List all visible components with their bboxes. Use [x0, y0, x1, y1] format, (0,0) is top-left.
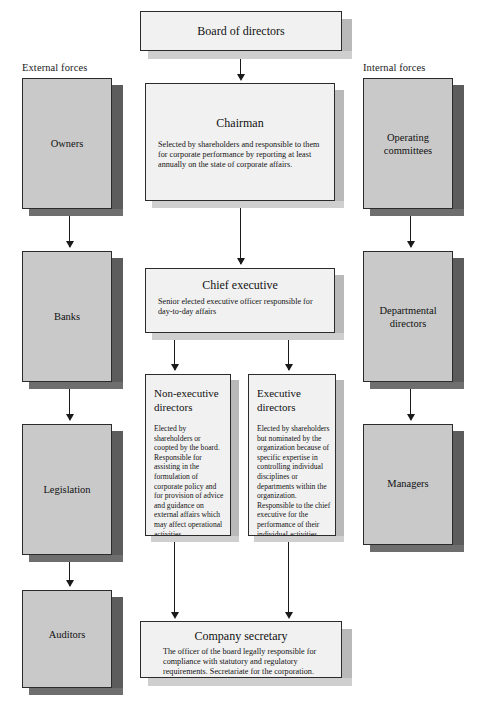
arrowhead-executive-to-company-secretary [285, 612, 293, 619]
external-forces-header: External forces [22, 62, 87, 73]
owners-label: Owners [51, 138, 84, 149]
departmental-directors-label-line2: directors [390, 318, 427, 329]
connector-non-executive-to-company-secretary [174, 542, 175, 617]
box-non-executive-directors: Non-executive directors Elected by share… [145, 374, 240, 542]
operating-committees-label-line1: Operating [387, 132, 429, 143]
internal-forces-header: Internal forces [363, 62, 425, 73]
box-chief-executive: Chief executive Senior elected executive… [145, 268, 345, 340]
arrowhead-chairman-to-chief-executive [237, 258, 245, 265]
connector-chairman-to-chief-executive [240, 208, 241, 264]
chief-executive-body: Senior elected executive officer respons… [158, 297, 326, 317]
arrowhead-to-non-executive-directors [171, 364, 179, 371]
box-executive-directors: Executive directors Elected by sharehold… [248, 374, 345, 542]
arrowhead-banks-to-legislation [66, 414, 74, 421]
arrowhead-legislation-to-auditors [66, 580, 74, 587]
connector-executive-to-company-secretary [288, 542, 289, 617]
box-operating-committees: Operating committees [363, 78, 464, 216]
chairman-title: Chairman [146, 116, 334, 130]
box-legislation: Legislation [22, 424, 123, 562]
box-departmental-directors: Departmental directors [363, 251, 464, 389]
operating-committees-label-line2: committees [384, 145, 432, 156]
legislation-label: Legislation [43, 484, 90, 495]
arrowhead-board-to-chairman [237, 74, 245, 81]
arrowhead-departmental-directors-to-managers [407, 414, 415, 421]
org-chart-diagram: External forces Internal forces Board of… [0, 0, 482, 709]
arrowhead-operating-committees-to-departmental-directors [407, 241, 415, 248]
box-banks: Banks [22, 251, 123, 389]
managers-label: Managers [387, 478, 428, 489]
executive-directors-body: Elected by shareholders but nominated by… [257, 424, 331, 536]
executive-directors-title-line1: Executive [257, 386, 331, 400]
company-secretary-body: The officer of the board legally respons… [163, 647, 325, 678]
box-auditors: Auditors [22, 590, 123, 695]
box-chairman: Chairman Selected by shareholders and re… [145, 83, 345, 208]
executive-directors-title-line2: directors [257, 400, 331, 414]
chairman-body: Selected by shareholders and responsible… [158, 140, 326, 171]
box-managers: Managers [363, 424, 464, 552]
arrowhead-non-executive-to-company-secretary [171, 612, 179, 619]
arrowhead-to-executive-directors [285, 364, 293, 371]
non-executive-directors-title-line2: directors [154, 400, 226, 414]
box-board-of-directors: Board of directors [140, 11, 352, 59]
board-of-directors-title: Board of directors [141, 24, 341, 38]
box-company-secretary: Company secretary The officer of the boa… [140, 621, 352, 686]
company-secretary-title: Company secretary [141, 629, 341, 643]
box-owners: Owners [22, 78, 123, 216]
non-executive-directors-title-line1: Non-executive [154, 386, 226, 400]
departmental-directors-label-line1: Departmental [379, 305, 436, 316]
banks-label: Banks [54, 311, 80, 322]
non-executive-directors-body: Elected by shareholders or coopted by th… [154, 424, 226, 536]
auditors-label: Auditors [49, 629, 86, 640]
arrowhead-owners-to-banks [66, 241, 74, 248]
chief-executive-title: Chief executive [146, 278, 334, 292]
